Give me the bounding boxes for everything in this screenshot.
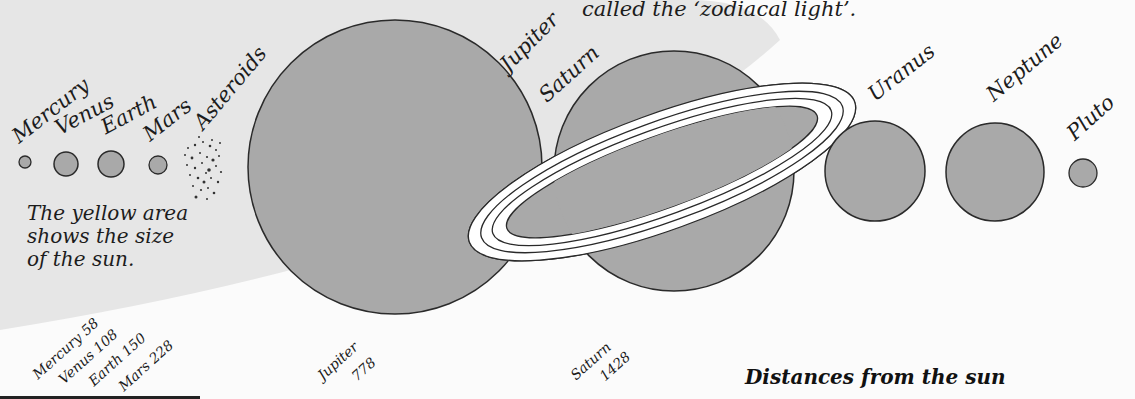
sun-note-line-1: The yellow area xyxy=(27,202,188,225)
sun-note-line-3: of the sun. xyxy=(27,248,188,271)
planet-earth xyxy=(98,151,124,177)
planet-jupiter xyxy=(248,20,542,314)
sun-note-line-2: shows the size xyxy=(27,225,188,248)
sun-size-note: The yellow area shows the size of the su… xyxy=(27,202,188,271)
planet-pluto xyxy=(1069,159,1097,187)
planet-uranus xyxy=(825,121,925,221)
zodiacal-light-caption: called the ‘zodiacal light’. xyxy=(582,0,856,21)
planet-mars xyxy=(149,156,167,174)
distances-title: Distances from the sun xyxy=(745,365,1005,389)
planet-venus xyxy=(54,152,78,176)
planet-mercury xyxy=(19,156,31,168)
planet-neptune xyxy=(946,123,1044,221)
